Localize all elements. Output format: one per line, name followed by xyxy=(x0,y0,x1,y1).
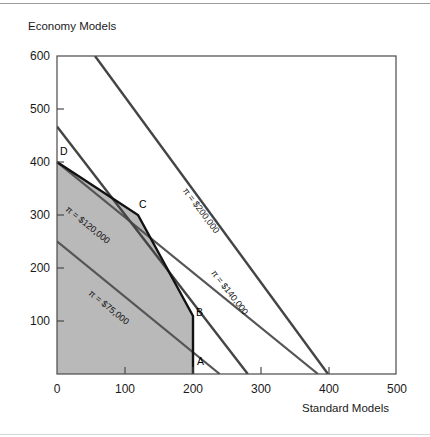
vertex-label-c: C xyxy=(139,198,147,210)
linear-programming-chart: Economy Models Standard Models 600 500 4… xyxy=(0,0,430,437)
bottom-divider xyxy=(0,434,430,435)
feasible-region-fill xyxy=(57,162,193,374)
plot-canvas xyxy=(0,0,430,437)
vertex-label-a: A xyxy=(197,355,204,367)
vertex-label-b: B xyxy=(196,306,203,318)
vertex-label-d: D xyxy=(60,145,68,157)
